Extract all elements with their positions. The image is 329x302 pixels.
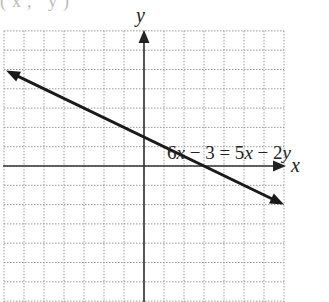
line-arrow-left-icon [6, 71, 21, 82]
line-arrow-right-icon [269, 194, 284, 205]
y-axis-arrow-icon [139, 30, 150, 43]
equation-label: 6x − 3 = 5x − 2y [167, 142, 292, 163]
x-axis-label: x [290, 154, 300, 176]
y-axis-label: y [134, 4, 145, 27]
plotted-line [6, 71, 284, 205]
coordinate-plane: y x 6x − 3 = 5x − 2y [0, 0, 329, 302]
